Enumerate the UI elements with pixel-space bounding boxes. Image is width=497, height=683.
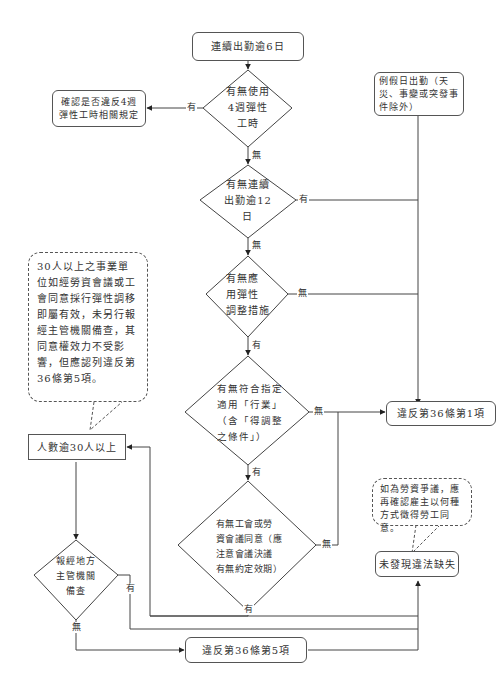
holiday-box: 例假日出勤（天 災、事變或突發事 件除外） (374, 72, 464, 116)
decision-flex4: 有無使用 4週彈性 工時 (208, 80, 288, 136)
note-30-employees: 30人以上之事業單位如經勞資會議或工會同意採行彈性調移即屬有效，未另行報經主管機… (28, 252, 148, 402)
start-text: 連續出勤逾6日 (211, 39, 284, 54)
label-union-yes: 有 (243, 604, 254, 615)
no-violation-box: 未發現違法缺失 (375, 551, 459, 577)
label-12days-yes: 有 (298, 194, 309, 205)
label-flex4-yes: 有 (186, 102, 197, 113)
label-industry-yes: 有 (251, 467, 262, 478)
label-union-no: 無 (321, 539, 332, 550)
label-flex4-no: 無 (251, 150, 262, 161)
label-industry-no: 無 (313, 406, 324, 417)
start-box: 連續出勤逾6日 (192, 32, 304, 61)
label-report-yes: 有 (125, 583, 136, 594)
label-adjust-no: 無 (297, 288, 308, 299)
violate-36-1-box: 違反第36條第1項 (386, 401, 496, 426)
decision-adjust: 有無應 用彈性 調整措施 (215, 268, 281, 322)
decision-12days: 有無連續 出勤逾12 日 (208, 175, 288, 227)
over-30-box: 人數逾30人以上 (28, 434, 126, 460)
decision-union: 有無工會或勞 資會議同意（應 注意會議決議 有無約定效期） (208, 515, 290, 579)
label-report-no: 無 (71, 622, 82, 633)
violate-36-5-box: 違反第36條第5項 (185, 637, 307, 663)
decision-report: 報經地方 主管機關 備查 (44, 551, 108, 601)
note-labor-dispute: 如為勞資爭議，應再確認雇主以何種方式徵得勞工同意。 (372, 478, 472, 526)
label-12days-no: 無 (251, 240, 262, 251)
label-adjust-yes: 有 (251, 340, 262, 351)
check-4week-box: 確認是否違反4週 彈性工時相關規定 (52, 90, 146, 127)
decision-industry: 有無符合指定 適用「行業」 （含「得調整 之條件」） (200, 380, 300, 446)
